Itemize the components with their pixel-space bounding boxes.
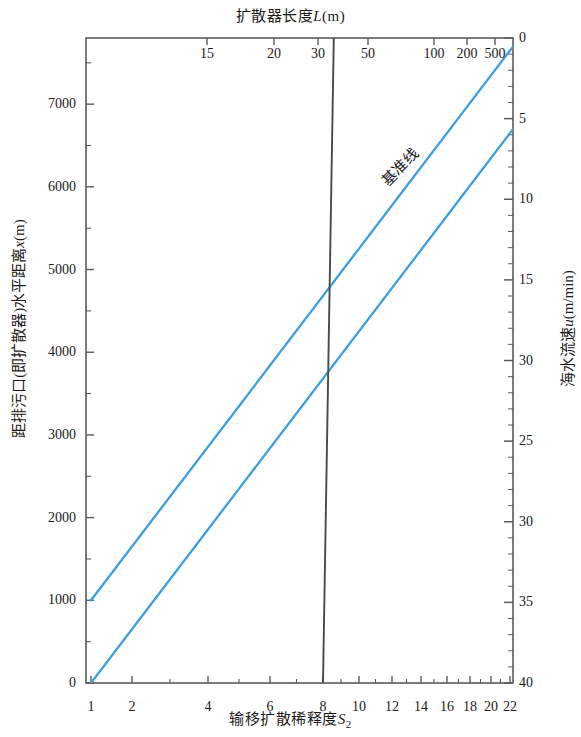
right-tick-label: 10	[519, 191, 533, 207]
bottom-tick-label: 18	[463, 699, 477, 715]
chart-figure: 扩散器长度L(m) 输移扩散稀释度S2 距排污口(即扩散器)水平距离x(m) 海…	[0, 0, 581, 737]
series-line-3	[323, 38, 334, 683]
right-tick-label: 40	[519, 675, 533, 691]
right-tick-label: 5	[519, 111, 526, 127]
top-tick-label: 20	[267, 46, 281, 62]
top-axis-ticks	[207, 38, 495, 45]
series-line-2	[91, 121, 520, 683]
right-tick-label: 30	[519, 353, 533, 369]
right-tick-label: 35	[519, 594, 533, 610]
plot-canvas	[0, 0, 581, 737]
bottom-tick-label: 12	[385, 699, 399, 715]
bottom-tick-label: 2	[129, 699, 136, 715]
bottom-tick-label: 4	[205, 699, 212, 715]
bottom-tick-label: 6	[267, 699, 274, 715]
left-axis-ticks	[86, 63, 94, 683]
left-tick-label: 4000	[8, 344, 76, 360]
bottom-tick-label: 20	[484, 699, 498, 715]
data-series-layer	[91, 38, 520, 683]
bottom-tick-label: 8	[320, 699, 327, 715]
plot-frame	[86, 38, 513, 683]
right-tick-label: 25	[519, 433, 533, 449]
right-tick-label: 15	[519, 272, 533, 288]
left-tick-label: 7000	[8, 96, 76, 112]
bottom-tick-label: 1	[88, 699, 95, 715]
left-tick-label: 6000	[8, 179, 76, 195]
bottom-tick-label: 16	[440, 699, 454, 715]
top-tick-label: 100	[424, 46, 445, 62]
bottom-axis-ticks	[91, 676, 510, 683]
left-tick-label: 3000	[8, 427, 76, 443]
bottom-tick-label: 14	[414, 699, 428, 715]
left-tick-label: 5000	[8, 262, 76, 278]
bottom-tick-label: 22	[503, 699, 517, 715]
top-tick-label: 200	[457, 46, 478, 62]
top-tick-label: 500	[485, 46, 506, 62]
series-line-1	[91, 38, 520, 600]
left-tick-label: 1000	[8, 592, 76, 608]
left-tick-label: 2000	[8, 510, 76, 526]
bottom-tick-label: 10	[352, 699, 366, 715]
top-tick-label: 50	[361, 46, 375, 62]
top-tick-label: 30	[311, 46, 325, 62]
right-tick-label: 0	[519, 30, 526, 46]
right-tick-label: 30	[519, 514, 533, 530]
top-tick-label: 15	[200, 46, 214, 62]
left-tick-label: 0	[8, 675, 76, 691]
